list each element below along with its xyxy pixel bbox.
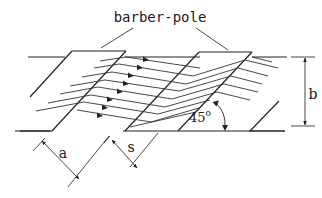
angle-arc-arrow-bottom xyxy=(222,125,228,131)
current-lines-left xyxy=(36,57,126,111)
angle-arc-arrow-top xyxy=(213,98,221,106)
dimension-a-label: a xyxy=(59,145,67,161)
dimension-b-label: b xyxy=(309,86,318,102)
barber-pole-stripe-1 xyxy=(20,51,126,131)
barber-pole-label: barber-pole xyxy=(114,9,207,25)
dimension-s-label: s xyxy=(127,139,134,155)
dimension-a xyxy=(33,136,109,187)
angle-arc xyxy=(216,103,225,127)
leader-line-right xyxy=(196,28,228,50)
barber-pole-diagram: barber-pole xyxy=(0,0,322,198)
leader-line-left xyxy=(101,28,133,48)
barber-pole-stripe-3-partial xyxy=(250,101,279,131)
angle-label: 45o xyxy=(189,108,211,125)
